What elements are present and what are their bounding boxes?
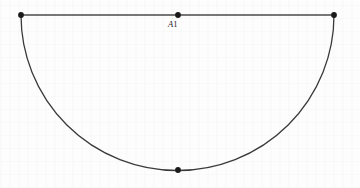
geometry-figure-canvas: A1 <box>0 0 360 188</box>
semicircle-diagram-svg <box>0 0 360 188</box>
vertex-label-a1: A1 <box>168 19 178 29</box>
semicircle-arc <box>21 15 334 170</box>
vertex-dot-bottom-arc <box>175 167 181 173</box>
vertex-label-a1-index: 1 <box>173 19 177 29</box>
vertex-dot-right-endpoint <box>331 12 337 18</box>
vertex-dot-top-center <box>175 12 181 18</box>
vertex-dot-left-endpoint <box>18 12 24 18</box>
